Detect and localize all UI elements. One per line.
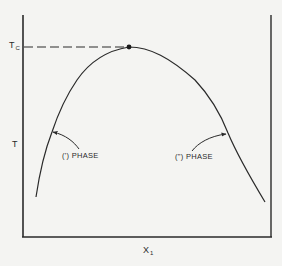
coexistence-curve [36,47,265,202]
phase-diagram [0,0,282,266]
left-phase-label: (') PHASE [62,152,99,160]
right-phase-label: (") PHASE [175,153,213,161]
critical-temperature-label: TC [9,41,20,51]
x-axis-label: X1 [143,246,153,256]
y-axis-label: T [12,140,18,149]
critical-point-marker [127,45,132,50]
critical-temperature-symbol: T [9,40,15,50]
left-phase-arrow [53,132,79,149]
right-phase-arrow [192,134,226,151]
x-axis-subscript: 1 [150,250,153,256]
critical-temperature-subscript: C [16,45,20,51]
x-axis-symbol: X [143,245,149,255]
